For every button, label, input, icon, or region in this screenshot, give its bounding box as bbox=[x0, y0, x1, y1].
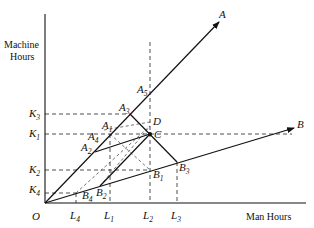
origin-label: O bbox=[32, 210, 40, 222]
ray-a bbox=[45, 22, 219, 203]
diagram-canvas: Machine Hours Man Hours O A B K3 K1 K2 K… bbox=[0, 0, 314, 228]
label-b3: B3 bbox=[179, 161, 190, 176]
label-a1: A1 bbox=[101, 119, 112, 134]
label-a5: A5 bbox=[136, 83, 148, 98]
isoquant-diagram: Machine Hours Man Hours O A B K3 K1 K2 K… bbox=[0, 0, 314, 228]
ray-a-label: A bbox=[218, 8, 226, 20]
tick-l2: L2 bbox=[142, 209, 153, 224]
label-a4: A4 bbox=[87, 130, 99, 145]
label-b4: B4 bbox=[82, 189, 93, 204]
tick-k4: K4 bbox=[28, 183, 40, 198]
ray-b-label: B bbox=[297, 118, 304, 130]
tick-l3: L3 bbox=[170, 209, 181, 224]
label-c: C bbox=[154, 128, 162, 140]
label-b1: B1 bbox=[153, 168, 163, 183]
point-c bbox=[148, 132, 152, 136]
tick-k1: K1 bbox=[28, 127, 40, 142]
tick-l1: L1 bbox=[103, 209, 114, 224]
tick-k2: K2 bbox=[28, 163, 40, 178]
label-a2: A2 bbox=[80, 141, 92, 156]
tick-l4: L4 bbox=[69, 209, 80, 224]
x-axis-title: Man Hours bbox=[246, 211, 291, 222]
y-axis-title-line2: Hours bbox=[10, 51, 35, 62]
tick-k3: K3 bbox=[28, 107, 40, 122]
y-axis-title-line1: Machine bbox=[4, 39, 40, 50]
label-b2: B2 bbox=[96, 186, 107, 201]
label-d: D bbox=[152, 115, 161, 127]
